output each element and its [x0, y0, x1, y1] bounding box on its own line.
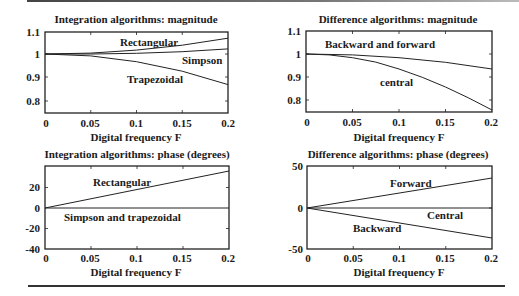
y-tick: 1: [296, 48, 302, 60]
x-tick: 0.05: [80, 117, 100, 129]
chart-title: Difference algorithms: magnitude: [319, 13, 478, 25]
figure: Integration algorithms: magnitude 1.1 1 …: [0, 0, 519, 296]
chart-title: Integration algorithms: magnitude: [54, 13, 217, 25]
chart-title: Integration algorithms: phase (degrees): [44, 148, 230, 161]
x-tick: 0.05: [342, 116, 362, 128]
x-tick: 0: [43, 252, 49, 264]
y-tick: 1.1: [26, 26, 40, 38]
x-tick: 0.05: [343, 252, 363, 264]
x-tick: 0: [305, 252, 311, 264]
annotation-backward: Backward: [353, 222, 401, 234]
x-tick: 0.15: [172, 252, 192, 264]
y-tick: 0.9: [287, 71, 301, 83]
x-axis-label: Digital frequency F: [91, 266, 182, 278]
annotation-rectangular: Rectangular: [120, 36, 178, 48]
annotation-simpson-and-trapezoidal: Simpson and trapezoidal: [64, 211, 181, 223]
y-tick: -20: [25, 222, 40, 234]
y-tick: 1: [35, 48, 41, 60]
y-tick: 0.8: [26, 95, 40, 107]
annotation-trapezoidal: Trapezoidal: [127, 73, 183, 85]
x-tick: 0.1: [392, 116, 406, 128]
y-tick: 50: [292, 160, 304, 172]
x-axis-label: Digital frequency F: [354, 131, 445, 143]
x-tick: 0.2: [484, 116, 498, 128]
x-tick: 0.15: [435, 252, 455, 264]
y-tick: 0: [298, 202, 304, 214]
annotation-central: central: [380, 76, 413, 88]
annotation-forward: Forward: [390, 177, 432, 189]
x-tick: 0.05: [80, 252, 100, 264]
y-tick: 20: [29, 181, 41, 193]
x-tick: 0.2: [221, 117, 235, 129]
x-tick: 0.15: [435, 116, 455, 128]
y-tick: 0.8: [287, 94, 301, 106]
chart-title: Difference algorithms: phase (degrees): [308, 148, 489, 161]
x-tick: 0.1: [129, 117, 143, 129]
x-tick: 0.2: [484, 252, 498, 264]
x-tick: 0: [304, 116, 310, 128]
x-tick: 0.15: [172, 117, 192, 129]
annotation-central: Central: [427, 209, 463, 221]
annotation-rectangular: Rectangular: [93, 176, 151, 188]
x-axis-label: Digital frequency F: [354, 266, 445, 278]
x-tick: 0.2: [221, 252, 235, 264]
x-axis-label: Digital frequency F: [91, 131, 182, 143]
x-tick: 0.1: [129, 252, 143, 264]
y-tick: -50: [288, 243, 303, 255]
annotation-backward-and-forward: Backward and forward: [325, 38, 435, 50]
y-tick: -40: [25, 243, 40, 255]
x-tick: 0.1: [392, 252, 406, 264]
y-tick: 0.9: [26, 71, 40, 83]
y-tick: 0: [35, 202, 41, 214]
series-backward-and-forward: [306, 54, 492, 69]
annotation-simpson: Simpson: [182, 54, 222, 66]
x-tick: 0: [43, 117, 49, 129]
y-tick: 1.1: [287, 25, 301, 37]
